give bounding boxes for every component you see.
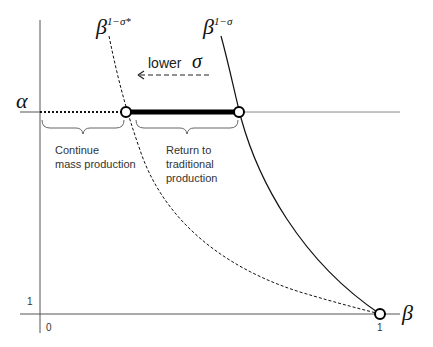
- arrow-label-sigma: σ: [192, 50, 202, 73]
- beta-axis-label: β: [402, 300, 413, 326]
- right-brace: [136, 120, 238, 134]
- continue-label-line1: Continue: [55, 144, 99, 157]
- solid-curve-label: β1−σ: [203, 14, 232, 40]
- dashed-curve-label: β1−σ*: [96, 14, 131, 40]
- origin-label: 0: [46, 321, 52, 334]
- solid-curve-exponent: 1−σ: [214, 15, 232, 27]
- return-label-line3: production: [166, 172, 217, 185]
- intersection-point-sigma: [234, 107, 244, 117]
- dashed-curve-base: β: [96, 14, 107, 39]
- alpha-label: α: [16, 88, 28, 114]
- solid-curve: [221, 36, 380, 314]
- dashed-curve: [109, 36, 380, 314]
- return-label-line2: traditional: [166, 158, 214, 171]
- diagram-canvas: β1−σ* β1−σ lower σ α β 0 1 1 Continue ma…: [0, 0, 433, 347]
- arrow-label-word: lower: [148, 55, 181, 71]
- intersection-point-sigma-star: [121, 107, 131, 117]
- dashed-curve-exponent: 1−σ*: [107, 15, 131, 27]
- return-label-line1: Return to: [166, 144, 211, 157]
- continue-label-line2: mass production: [55, 158, 136, 171]
- y-tick-one: 1: [27, 295, 33, 308]
- point-one-one: [375, 309, 385, 319]
- x-tick-one: 1: [377, 321, 383, 334]
- solid-curve-base: β: [203, 14, 214, 39]
- left-brace: [42, 120, 124, 134]
